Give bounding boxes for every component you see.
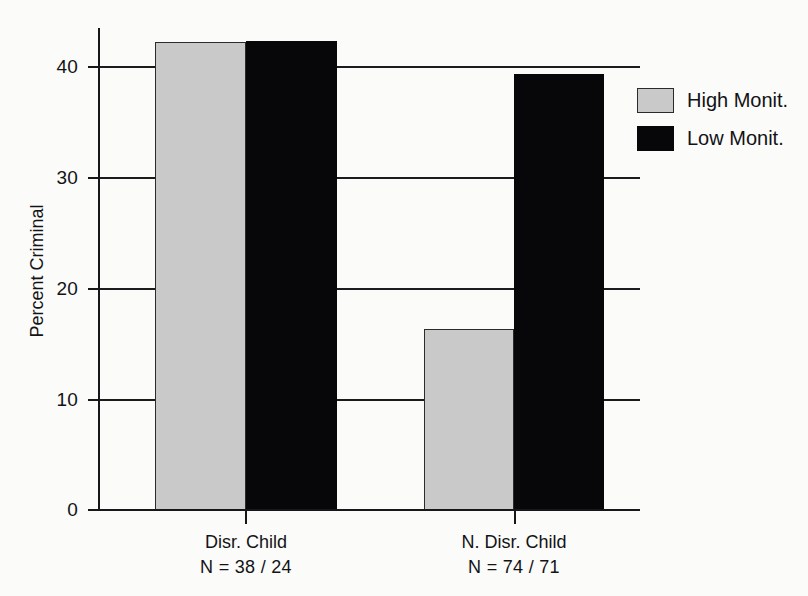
- y-tick-label-40: 40: [38, 57, 78, 76]
- legend-label-low-monit: Low Monit.: [687, 124, 784, 152]
- y-tick-mark-40: [88, 66, 99, 68]
- x-tick-mark-disr-child: [245, 511, 247, 524]
- x-group-label-n-disr-child: N. Disr. Child N = 74 / 71: [414, 530, 614, 580]
- x-group-label-n: N = 38 / 24: [146, 555, 346, 580]
- y-tick-mark-30: [88, 177, 99, 179]
- legend-swatch-black-icon: [637, 126, 674, 151]
- x-group-label-n: N = 74 / 71: [414, 555, 614, 580]
- y-axis-title: Percent Criminal: [28, 141, 46, 401]
- x-group-label-text: N. Disr. Child: [461, 532, 566, 552]
- y-axis-line: [98, 28, 100, 511]
- x-tick-mark-n-disr-child: [514, 511, 516, 524]
- chart-figure: 40 30 20 10 0 Percent Criminal Disr. Chi…: [0, 0, 808, 596]
- y-tick-mark-0: [88, 509, 99, 511]
- bar-disr-child-low-monit: [246, 41, 337, 511]
- legend-label-high-monit: High Monit.: [687, 86, 788, 114]
- y-tick-mark-10: [88, 399, 99, 401]
- y-tick-mark-20: [88, 288, 99, 290]
- bar-n-disr-child-low-monit: [514, 74, 604, 511]
- bar-n-disr-child-high-monit: [424, 329, 514, 511]
- x-group-label-text: Disr. Child: [205, 532, 287, 552]
- caption-fragment: [300, 586, 520, 596]
- x-axis-line: [98, 509, 640, 511]
- y-tick-label-0: 0: [38, 500, 78, 519]
- bar-disr-child-high-monit: [155, 42, 246, 511]
- x-group-label-disr-child: Disr. Child N = 38 / 24: [146, 530, 346, 580]
- legend-swatch-gray-icon: [637, 88, 674, 113]
- plot-area: 40 30 20 10 0 Percent Criminal Disr. Chi…: [0, 0, 808, 596]
